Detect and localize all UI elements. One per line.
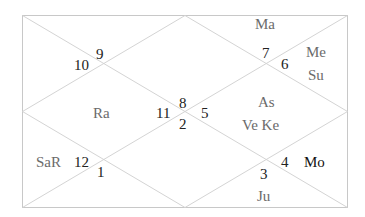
house-number-10: 10 [74,58,89,73]
house-number-5: 5 [201,106,209,121]
house-number-11: 11 [156,106,170,121]
house-number-7: 7 [262,46,270,61]
planet-sun: Su [308,68,324,83]
planet-moon: Mo [304,155,325,170]
house-number-8: 8 [179,96,187,111]
house-number-2: 2 [179,117,187,132]
birth-chart: 9 10 Ma 7 6 Me Su Ra 11 8 2 5 As Ve Ke S… [0,0,365,217]
house-number-12: 12 [74,155,89,170]
house-number-6: 6 [281,57,289,72]
planet-mercury: Me [306,45,326,60]
house-number-9: 9 [96,47,104,62]
planet-saturn-retrograde: SaR [36,155,61,170]
house-number-3: 3 [260,167,268,182]
house-number-1: 1 [97,165,105,180]
planet-ascendant: As [258,95,275,110]
house-number-4: 4 [281,155,289,170]
planets-venus-ketu: Ve Ke [242,118,279,133]
planet-jupiter: Ju [257,189,270,204]
planet-rahu: Ra [93,106,110,121]
planet-mars: Ma [255,17,275,32]
